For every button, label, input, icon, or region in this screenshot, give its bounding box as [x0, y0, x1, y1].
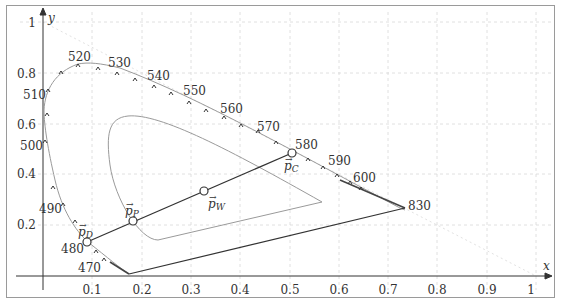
wl-540: 540 — [147, 69, 170, 83]
svg-text:0.5: 0.5 — [280, 283, 299, 297]
svg-text:0.4: 0.4 — [230, 283, 249, 297]
wl-510: 510 — [23, 88, 46, 102]
wl-520: 520 — [68, 50, 91, 64]
wl-470: 470 — [78, 261, 101, 275]
svg-text:0.2: 0.2 — [132, 283, 151, 297]
grid — [20, 12, 552, 290]
svg-text:0.6: 0.6 — [17, 118, 36, 132]
y-tick-labels: 0.2 0.4 0.6 0.8 1 — [17, 16, 36, 232]
wl-490: 490 — [39, 202, 62, 216]
svg-text:1: 1 — [527, 283, 535, 297]
wl-590: 590 — [328, 154, 351, 168]
svg-text:0.4: 0.4 — [17, 167, 36, 181]
dominant-line — [87, 153, 292, 242]
svg-text:0.7: 0.7 — [378, 283, 397, 297]
svg-text:0.8: 0.8 — [427, 283, 446, 297]
wl-560: 560 — [220, 102, 243, 116]
wl-580: 580 — [295, 138, 318, 152]
wl-570: 570 — [257, 120, 280, 134]
vec-arrow-pP: → — [126, 199, 134, 209]
chromaticity-diagram: x y 0.1 0.2 0.3 0.4 0.5 0.6 0.7 0.8 0.9 … — [0, 0, 563, 306]
wl-830: 830 — [408, 199, 431, 213]
svg-text:0.6: 0.6 — [329, 283, 348, 297]
y-axis-label: y — [47, 11, 55, 25]
wavelength-labels: 470 480 490 500 510 520 530 540 550 560 … — [20, 50, 431, 275]
wl-480: 480 — [61, 242, 84, 256]
wl-550: 550 — [183, 84, 206, 98]
point-labels: pD → pP → pW → pC → — [78, 154, 299, 240]
point-pW — [200, 187, 208, 195]
svg-text:0.8: 0.8 — [17, 67, 36, 81]
x-tick-labels: 0.1 0.2 0.3 0.4 0.5 0.6 0.7 0.8 0.9 1 — [82, 283, 534, 297]
svg-text:0.2: 0.2 — [17, 218, 36, 232]
svg-text:1: 1 — [28, 16, 36, 30]
wl-600: 600 — [353, 171, 376, 185]
spectral-locus — [44, 63, 405, 274]
line-of-purples — [129, 208, 405, 274]
vec-arrow-pW: → — [209, 192, 217, 202]
x-axis-label: x — [543, 259, 550, 273]
svg-text:0.1: 0.1 — [82, 283, 101, 297]
vec-arrow-pC: → — [285, 154, 293, 164]
vec-arrow-pD: → — [79, 220, 87, 230]
axes — [16, 8, 552, 290]
svg-text:0.3: 0.3 — [181, 283, 200, 297]
wl-500: 500 — [20, 139, 43, 153]
wl-530: 530 — [108, 56, 131, 70]
svg-text:0.9: 0.9 — [477, 283, 496, 297]
spectral-locus-blue-end — [110, 262, 129, 274]
